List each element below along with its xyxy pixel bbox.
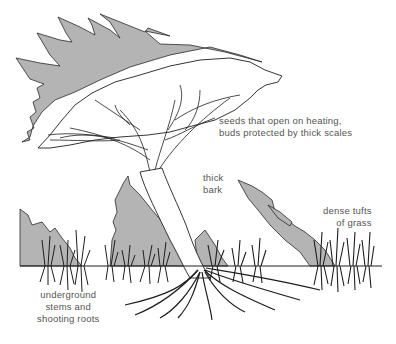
label-underground-stems: underground stems and shooting roots — [37, 289, 99, 325]
label-grass-line1: dense tufts — [323, 205, 372, 217]
label-under-line1: underground — [37, 289, 99, 301]
label-dense-grass: dense tufts of grass — [323, 205, 372, 229]
label-bark-line2: bark — [203, 184, 224, 196]
label-thick-bark: thick bark — [203, 172, 224, 196]
label-under-line2: stems and — [37, 301, 99, 313]
label-seeds-line2: buds protected by thick scales — [219, 127, 352, 139]
label-under-line3: shooting roots — [37, 313, 99, 325]
tree-roots — [125, 268, 320, 320]
label-grass-line2: of grass — [323, 217, 372, 229]
label-seeds-line1: seeds that open on heating, — [219, 115, 352, 127]
label-bark-line1: thick — [203, 172, 224, 184]
label-seeds-buds: seeds that open on heating, buds protect… — [219, 115, 352, 139]
